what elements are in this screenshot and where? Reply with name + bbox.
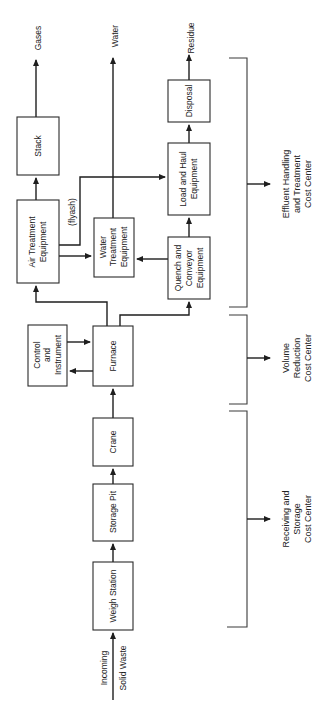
svg-text:Cost Center: Cost Center (303, 160, 313, 208)
box-disposal: Disposal (168, 80, 210, 122)
label-incoming: Incoming (99, 650, 109, 685)
label-solid-waste: Solid Waste (118, 645, 128, 690)
label-residue: Residue (186, 22, 196, 53)
box-quench-conveyor: Quench and Conveyor Equipment (168, 237, 210, 299)
svg-text:Equipment: Equipment (189, 158, 199, 199)
svg-text:Furnace: Furnace (108, 340, 118, 371)
svg-text:Stack: Stack (33, 135, 43, 157)
box-storage-pit: Storage Pit (93, 484, 133, 541)
process-flow-diagram: Weigh Station Storage Pit Crane Furnace … (0, 0, 322, 708)
arrow-furnace-to-air (36, 286, 107, 326)
svg-text:and: and (42, 348, 52, 362)
box-crane: Crane (93, 418, 133, 466)
box-load-haul: Load and Haul Equipment (168, 143, 210, 215)
svg-text:Cost Center: Cost Center (303, 334, 313, 382)
svg-text:Reduction: Reduction (292, 338, 302, 379)
bracket-volume-reduction: Volume Reduction Cost Center (229, 315, 313, 404)
box-air-treatment: Air Treatment Equipment (17, 200, 59, 283)
box-stack: Stack (17, 117, 59, 175)
svg-text:Storage: Storage (292, 503, 302, 535)
svg-text:and Treatment: and Treatment (292, 154, 302, 213)
svg-text:Effluent Handling: Effluent Handling (281, 150, 291, 218)
svg-text:Control: Control (32, 341, 42, 369)
svg-text:Treatment: Treatment (108, 227, 118, 266)
label-water: Water (110, 25, 120, 48)
box-weigh-station: Weigh Station (93, 562, 133, 630)
svg-text:Quench and: Quench and (173, 245, 183, 292)
svg-text:Air Treatment: Air Treatment (27, 216, 37, 268)
bracket-receiving-storage: Receiving and Storage Cost Center (227, 411, 313, 627)
svg-text:Receiving and: Receiving and (281, 490, 291, 547)
svg-text:Load and Haul: Load and Haul (178, 151, 188, 206)
svg-text:Equipment: Equipment (38, 221, 48, 262)
svg-text:Volume: Volume (281, 343, 291, 373)
svg-text:Equipment: Equipment (119, 226, 129, 267)
bracket-effluent: Effluent Handling and Treatment Cost Cen… (229, 58, 313, 307)
svg-text:Cost Center: Cost Center (303, 495, 313, 543)
arrow-furnace-to-quench (120, 302, 189, 326)
label-flyash: (flyash) (67, 198, 77, 226)
box-water-treatment: Water Treatment Equipment (94, 218, 134, 277)
svg-text:Weigh Station: Weigh Station (108, 569, 118, 622)
box-control-instrument: Control and Instrument (28, 325, 67, 386)
label-gases: Gases (33, 26, 43, 51)
svg-text:Instrument: Instrument (53, 334, 63, 375)
svg-text:Crane: Crane (108, 430, 118, 453)
svg-text:Storage Pit: Storage Pit (108, 490, 118, 533)
svg-text:Water: Water (98, 236, 108, 259)
svg-text:Equipment: Equipment (195, 247, 205, 288)
box-furnace: Furnace (93, 326, 133, 386)
svg-text:Conveyor: Conveyor (184, 250, 194, 287)
svg-text:Disposal: Disposal (184, 85, 194, 118)
